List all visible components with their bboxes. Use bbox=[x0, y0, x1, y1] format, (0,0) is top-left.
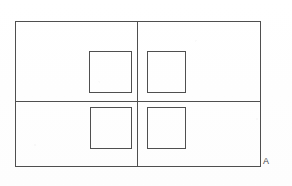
square-top-left bbox=[90, 52, 132, 93]
line-drawing bbox=[0, 0, 292, 186]
drawing-canvas: A bbox=[0, 0, 292, 186]
square-bottom-left bbox=[91, 108, 132, 149]
square-top-right bbox=[148, 52, 186, 93]
square-bottom-right bbox=[148, 108, 186, 149]
corner-label-a: A bbox=[263, 156, 269, 166]
